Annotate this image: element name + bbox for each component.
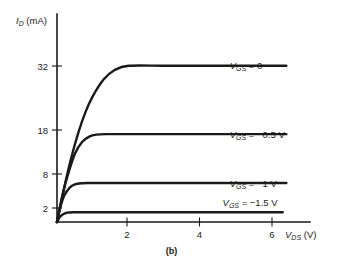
x-tick-label-6: 6: [269, 229, 274, 240]
y-tick-label-32: 32: [37, 61, 48, 72]
series-label-vgs-minus-0p5: VGS = −0.5 V: [230, 129, 286, 141]
series-label-vgs-minus-1: VGS = −1 V: [230, 178, 278, 190]
y-axis-ticks: 32 18 8 2: [37, 61, 62, 214]
series-label-text-vgs-0: VGS = 0: [230, 60, 263, 72]
jfet-drain-characteristics-chart: ID (mA) 32 18 8 2 2 4 6 VDS (V): [0, 0, 343, 269]
series-label-text-vgs-minus-1: VGS = −1 V: [230, 178, 278, 190]
y-axis-title: ID (mA): [16, 15, 47, 27]
series-label-vgs-minus-1p5: VGS = −1.5 V: [223, 197, 279, 209]
curve-vgs-minus-1p5: [57, 212, 283, 222]
y-tick-label-18: 18: [37, 125, 48, 136]
series-label-text-vgs-minus-0p5: VGS = −0.5 V: [230, 129, 286, 141]
series-label-vgs-0: VGS = 0: [230, 60, 263, 72]
x-tick-label-4: 4: [197, 229, 202, 240]
x-axis-title: VDS (V): [285, 229, 316, 241]
y-tick-label-2: 2: [43, 203, 48, 214]
y-tick-label-8: 8: [43, 169, 48, 180]
x-axis-ticks: 2 4 6: [124, 218, 274, 241]
figure-caption: (b): [0, 246, 343, 256]
series-label-text-vgs-minus-1p5: VGS = −1.5 V: [223, 197, 279, 209]
x-tick-label-2: 2: [124, 229, 129, 240]
figure-container: ID (mA) 32 18 8 2 2 4 6 VDS (V): [0, 0, 343, 269]
